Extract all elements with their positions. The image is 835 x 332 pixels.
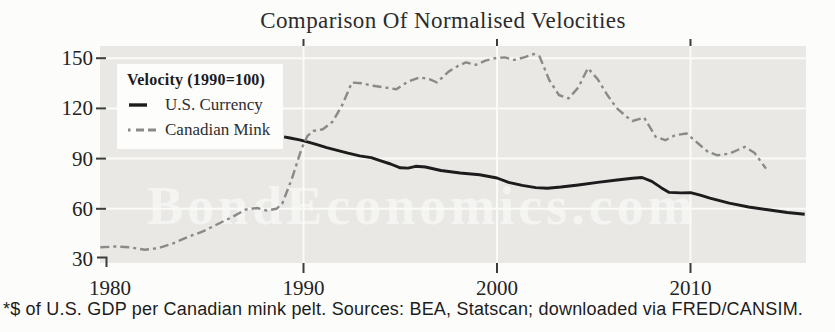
legend-label-canadian-mink: Canadian Mink — [165, 120, 270, 140]
legend-item-us-currency: U.S. Currency — [127, 96, 283, 114]
series-line-us-currency — [284, 137, 805, 214]
legend-box: Velocity (1990=100) U.S. Currency Canadi… — [117, 64, 283, 149]
legend-title: Velocity (1990=100) — [127, 71, 283, 89]
solid-line-sample-icon — [127, 101, 157, 109]
legend-label-us-currency: U.S. Currency — [165, 95, 263, 115]
dash-dot-line-sample-icon — [127, 126, 157, 134]
legend-item-canadian-mink: Canadian Mink — [127, 121, 283, 139]
origin-corner-tick-mark — [97, 258, 107, 268]
chart-plot-svg — [0, 0, 835, 332]
chart-page: Comparison Of Normalised Velocities Bond… — [0, 0, 835, 332]
